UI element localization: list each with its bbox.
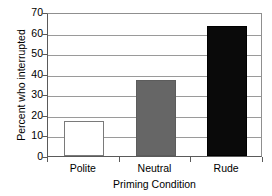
y-axis-tick-labels: 010203040506070	[16, 0, 43, 196]
y-tick-label-10: 10	[16, 130, 43, 141]
y-tick-label-60: 60	[16, 28, 43, 39]
y-tick-label-40: 40	[16, 69, 43, 80]
y-tick-label-30: 30	[16, 89, 43, 100]
x-tick-mark-3	[262, 157, 263, 162]
y-tick-label-70: 70	[16, 7, 43, 18]
x-category-label-rude: Rude	[190, 162, 262, 175]
bar-rude	[207, 26, 247, 156]
bar-chart: Percent who interrupted 010203040506070 …	[0, 0, 272, 196]
bar-neutral	[136, 80, 176, 156]
x-category-label-polite: Polite	[47, 162, 119, 175]
plot-area	[47, 13, 262, 157]
x-axis-title: Priming Condition	[47, 178, 262, 191]
x-category-label-neutral: Neutral	[119, 162, 191, 175]
y-tick-label-50: 50	[16, 48, 43, 59]
bar-polite	[64, 121, 104, 156]
y-tick-label-0: 0	[16, 151, 43, 162]
y-tick-label-20: 20	[16, 110, 43, 121]
